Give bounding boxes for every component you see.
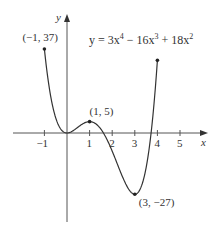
equation-label: y = 3x4 − 16x3 + 18x2	[89, 32, 193, 47]
x-tick-label: 4	[154, 137, 160, 149]
point-label: (1, 5)	[90, 105, 114, 118]
y-axis-arrow-icon	[64, 14, 70, 22]
point-marker	[43, 47, 47, 51]
function-curve	[44, 49, 157, 194]
x-tick-label: 1	[87, 137, 93, 149]
x-tick-label: 5	[177, 137, 183, 149]
x-tick-label: 3	[132, 137, 138, 149]
point-marker	[156, 59, 160, 63]
y-axis-label: y	[55, 11, 61, 23]
x-tick-label: −1	[36, 137, 48, 149]
point-marker	[88, 120, 92, 124]
function-graph: x y −112345 y = 3x4 − 16x3 + 18x2 (−1, 3…	[0, 0, 221, 230]
point-marker	[133, 192, 137, 196]
x-axis-label: x	[200, 136, 206, 148]
point-label: (−1, 37)	[22, 31, 58, 44]
point-label: (3, −27)	[139, 196, 175, 209]
